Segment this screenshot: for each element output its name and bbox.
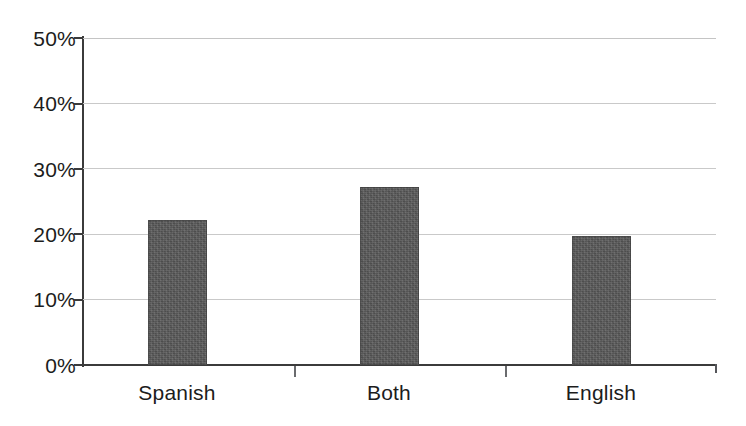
x-axis-end-tick	[715, 364, 717, 373]
x-category-label-english: English	[530, 381, 672, 405]
y-tick-label-30: 30%	[4, 159, 76, 180]
x-axis-tick-separator-1	[294, 366, 296, 377]
bar-both[interactable]	[360, 187, 419, 365]
plot-area	[83, 38, 716, 365]
y-axis-labels: 50% 40% 30% 20% 10% 0%	[0, 0, 76, 426]
x-category-label-both: Both	[318, 381, 460, 405]
gridline-40	[83, 103, 716, 104]
gridline-30	[83, 168, 716, 169]
y-tick-label-10: 10%	[4, 289, 76, 310]
y-tick-label-40: 40%	[4, 93, 76, 114]
bar-english[interactable]	[572, 236, 631, 365]
bar-chart-figure: 50% 40% 30% 20% 10% 0% Spanish Both Engl…	[0, 0, 746, 426]
gridline-50	[83, 38, 716, 39]
x-axis-tick-separator-2	[505, 366, 507, 377]
y-tick-label-0: 0%	[4, 355, 76, 376]
bar-spanish[interactable]	[148, 220, 207, 365]
y-tick-label-50: 50%	[4, 28, 76, 49]
x-category-label-spanish: Spanish	[106, 381, 248, 405]
y-tick-label-20: 20%	[4, 224, 76, 245]
